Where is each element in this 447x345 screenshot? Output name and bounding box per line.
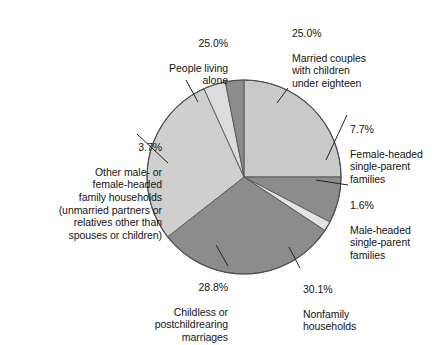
slice-label-other-family: 3.7% Other male- or female-headed family…: [2, 128, 162, 254]
slice-percent-male-headed: 1.6%: [350, 199, 446, 212]
slice-label-female-headed: 7.7% Female-headed single-parent familie…: [350, 110, 446, 198]
slice-percent-nonfamily: 30.1%: [303, 283, 413, 296]
slice-name-nonfamily: Nonfamily households: [303, 308, 413, 333]
slice-percent-living-alone: 25.0%: [108, 37, 228, 50]
slice-label-nonfamily: 30.1% Nonfamily households: [303, 270, 413, 345]
pie-chart: 25.0% Married couples with children unde…: [0, 0, 447, 345]
slice-name-male-headed: Male-headed single-parent families: [350, 224, 446, 262]
slice-label-childless: 28.8% Childless or postchildrearing marr…: [95, 268, 228, 345]
slice-percent-other-family: 3.7%: [2, 141, 162, 154]
slice-name-other-family: Other male- or female-headed family hous…: [2, 166, 162, 242]
slice-name-living-alone: People living alone: [108, 62, 228, 87]
slice-name-female-headed: Female-headed single-parent families: [350, 148, 446, 186]
slice-name-married-couples: Married couples with children under eigh…: [292, 52, 432, 90]
slice-percent-childless: 28.8%: [95, 281, 228, 294]
slice-label-living-alone: 25.0% People living alone: [108, 24, 228, 100]
slice-name-childless: Childless or postchildrearing marriages: [95, 306, 228, 344]
slice-percent-female-headed: 7.7%: [350, 123, 446, 136]
slice-label-male-headed: 1.6% Male-headed single-parent families: [350, 186, 446, 274]
slice-percent-married-couples: 25.0%: [292, 27, 432, 40]
slice-label-married-couples: 25.0% Married couples with children unde…: [292, 14, 432, 102]
